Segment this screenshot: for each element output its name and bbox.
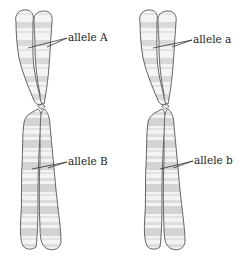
label-allele-B: allele B: [68, 156, 108, 167]
label-allele-a: allele a: [193, 34, 231, 45]
chromosome-left: [16, 10, 67, 250]
homologous-chromosome-diagram: allele A allele B allele a allele b: [0, 0, 248, 262]
label-allele-A: allele A: [68, 32, 108, 43]
chromosome-right: [140, 10, 193, 250]
label-allele-b: allele b: [194, 155, 233, 166]
